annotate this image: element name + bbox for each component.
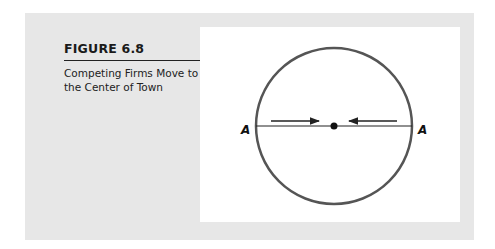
right-endpoint-label: A <box>417 123 427 137</box>
figure-caption: FIGURE 6.8 Competing Firms Move to the C… <box>64 41 210 94</box>
figure-title: Competing Firms Move to the Center of To… <box>64 66 210 94</box>
left-endpoint-label: A <box>240 123 250 137</box>
figure-label: FIGURE 6.8 <box>64 41 210 61</box>
diagram-area: A A <box>200 27 460 222</box>
center-point <box>331 123 338 130</box>
town-diagram: A A <box>200 27 460 222</box>
